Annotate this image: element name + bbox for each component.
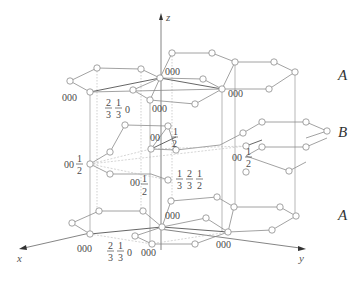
svg-text:00: 00 bbox=[64, 159, 74, 170]
svg-text:1: 1 bbox=[177, 168, 182, 179]
svg-text:1: 1 bbox=[116, 97, 121, 108]
svg-text:3: 3 bbox=[118, 252, 123, 263]
layer-label-top: A bbox=[337, 67, 348, 83]
svg-text:2: 2 bbox=[197, 180, 202, 191]
svg-text:0: 0 bbox=[125, 104, 130, 115]
svg-text:00: 00 bbox=[150, 132, 160, 143]
z-axis-label: z bbox=[165, 11, 171, 23]
layer-a-bottom bbox=[69, 194, 299, 247]
layer-b-middle bbox=[87, 119, 330, 183]
coord-000: 000 bbox=[152, 103, 167, 114]
coord-000: 000 bbox=[216, 239, 231, 250]
x-axis-arrow-icon bbox=[19, 245, 27, 250]
svg-text:3: 3 bbox=[106, 109, 111, 120]
coord-00-half-left: 00 1 2 bbox=[64, 153, 83, 176]
layer-label-bottom: A bbox=[337, 207, 348, 223]
coord-000: 000 bbox=[62, 92, 77, 103]
coord-frac-2-3-1-3-0-bottom: 2 3 1 3 0 bbox=[107, 240, 132, 263]
svg-text:2: 2 bbox=[108, 240, 113, 251]
svg-text:2: 2 bbox=[172, 138, 177, 149]
y-axis-arrow-icon bbox=[298, 246, 306, 251]
coord-00-half-front: 00 1 2 bbox=[130, 173, 148, 197]
svg-text:1: 1 bbox=[77, 153, 82, 164]
coord-000: 000 bbox=[77, 243, 92, 254]
svg-text:3: 3 bbox=[116, 109, 121, 120]
atoms-bottom bbox=[69, 194, 299, 247]
coord-000: 000 bbox=[141, 247, 156, 258]
z-axis-arrow-icon bbox=[159, 13, 163, 20]
svg-text:1: 1 bbox=[118, 240, 123, 251]
coord-000: 000 bbox=[165, 66, 180, 77]
graphite-structure-diagram: z x y bbox=[0, 0, 360, 281]
svg-text:0: 0 bbox=[127, 247, 132, 258]
svg-text:3: 3 bbox=[187, 180, 192, 191]
svg-text:2: 2 bbox=[246, 158, 251, 169]
svg-text:1: 1 bbox=[246, 146, 251, 157]
x-axis-label: x bbox=[16, 252, 22, 264]
svg-text:2: 2 bbox=[106, 97, 111, 108]
layer-label-middle: B bbox=[338, 124, 347, 140]
layer-a-top bbox=[67, 50, 298, 107]
svg-text:1: 1 bbox=[142, 173, 147, 184]
coord-00-half-center: 00 1 2 bbox=[150, 126, 178, 149]
coord-000: 000 bbox=[228, 88, 243, 99]
svg-text:3: 3 bbox=[108, 252, 113, 263]
svg-text:2: 2 bbox=[142, 186, 147, 197]
svg-text:00: 00 bbox=[130, 177, 140, 188]
svg-text:00: 00 bbox=[232, 152, 242, 163]
svg-text:2: 2 bbox=[187, 168, 192, 179]
y-axis-label: y bbox=[298, 252, 304, 264]
svg-text:2: 2 bbox=[77, 165, 82, 176]
svg-text:1: 1 bbox=[173, 126, 178, 137]
coord-000: 000 bbox=[165, 210, 180, 221]
coord-frac-1-3-2-3-1-2: 1 3 2 3 1 2 bbox=[176, 168, 203, 191]
coord-frac-2-3-1-3-0: 2 3 1 3 0 bbox=[105, 97, 130, 120]
svg-text:3: 3 bbox=[177, 180, 182, 191]
svg-text:1: 1 bbox=[197, 168, 202, 179]
